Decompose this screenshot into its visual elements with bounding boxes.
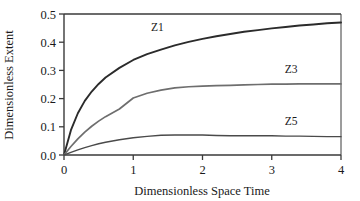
series-label-z3: Z3: [285, 63, 298, 75]
x-axis-title: Dimensionless Space Time: [134, 184, 270, 198]
x-tick-label: 4: [338, 163, 345, 177]
series-label-z5: Z5: [285, 115, 298, 127]
x-tick-label: 0: [61, 163, 67, 177]
x-tick-label: 2: [199, 163, 205, 177]
y-tick-label: 0.2: [40, 92, 56, 106]
x-tick-label: 1: [130, 163, 136, 177]
line-chart: 0.00.10.20.30.40.501234 Z1Z3Z5 Dimension…: [0, 0, 360, 201]
y-tick-label: 0.5: [40, 8, 56, 22]
chart-figure: 0.00.10.20.30.40.501234 Z1Z3Z5 Dimension…: [0, 0, 360, 201]
x-tick-label: 3: [269, 163, 275, 177]
y-axis-title: Dimensionless Extent: [2, 30, 16, 140]
y-tick-label: 0.3: [40, 64, 56, 78]
y-tick-label: 0.4: [40, 36, 56, 50]
y-tick-label: 0.1: [40, 120, 56, 134]
series-label-z1: Z1: [151, 21, 164, 33]
y-tick-label: 0.0: [40, 149, 56, 163]
